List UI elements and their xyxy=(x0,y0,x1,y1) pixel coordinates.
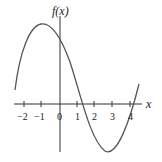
tick-label: 1 xyxy=(75,111,80,122)
x-axis-label: x xyxy=(145,97,152,111)
tick-label: 4 xyxy=(128,111,133,122)
tick-label: −1 xyxy=(34,111,45,122)
x-tick-labels: −2 −1 0 1 2 3 4 xyxy=(17,111,133,122)
y-axis-label: f(x) xyxy=(52,4,69,18)
function-graph: f(x) x −2 −1 0 1 2 3 4 xyxy=(0,0,162,162)
tick-label: −2 xyxy=(17,111,28,122)
tick-label: 2 xyxy=(92,111,97,122)
tick-label: 0 xyxy=(57,111,62,122)
function-curve xyxy=(15,24,139,152)
tick-label: 3 xyxy=(110,111,115,122)
